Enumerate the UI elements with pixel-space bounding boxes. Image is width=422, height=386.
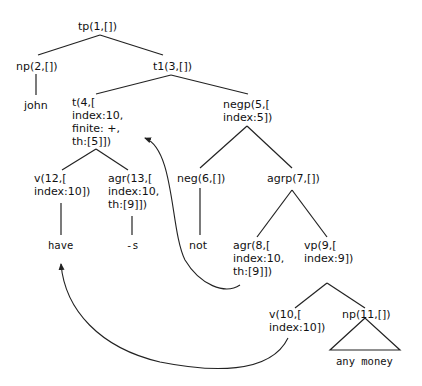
leaf-have: have bbox=[48, 239, 73, 252]
leaf-s: -s bbox=[126, 239, 139, 252]
leaf-not: not bbox=[189, 239, 207, 252]
node-negp5: negp(5,[ index:5]) bbox=[223, 98, 272, 124]
edge-t-agr13 bbox=[96, 149, 128, 170]
edge-negp-neg bbox=[200, 126, 247, 168]
node-agrp7: agrp(7,[]) bbox=[267, 172, 320, 185]
edge-vp-v10 bbox=[295, 283, 327, 308]
node-neg6: neg(6,[]) bbox=[177, 172, 225, 185]
node-np2: np(2,[]) bbox=[16, 60, 58, 73]
syntax-tree-diagram: tp(1,[]) np(2,[]) t1(3,[]) john t(4,[ in… bbox=[0, 0, 422, 386]
edge-agrp-agr8 bbox=[257, 190, 292, 237]
leaf-john: john bbox=[24, 99, 48, 112]
edge-t-v12 bbox=[62, 149, 96, 170]
node-agr8: agr(8,[ index:10, th:[9]]) bbox=[233, 239, 284, 278]
edge-tp-np bbox=[38, 35, 100, 55]
edge-agrp-vp9 bbox=[292, 190, 327, 237]
edge-vp-np11 bbox=[327, 283, 365, 308]
node-v12: v(12,[ index:10]) bbox=[34, 172, 90, 198]
movement-arrow-v10-to-have bbox=[61, 264, 288, 369]
node-np11: np(11,[]) bbox=[342, 308, 391, 321]
edge-negp-agrp bbox=[247, 126, 292, 168]
leaf-any-money: any money bbox=[336, 355, 393, 368]
node-vp9: vp(9,[ index:9]) bbox=[304, 239, 353, 265]
edge-tp-t1 bbox=[100, 35, 163, 55]
node-v10: v(10,[ index:10]) bbox=[269, 308, 325, 334]
node-t4: t(4,[ index:10, finite: +, th:[5]]) bbox=[72, 96, 123, 148]
movement-arrow-agr8-to-t4 bbox=[145, 138, 240, 289]
edge-t1-t bbox=[96, 75, 171, 94]
node-tp1: tp(1,[]) bbox=[78, 20, 117, 33]
edge-t1-negp bbox=[171, 75, 248, 94]
np11-triangle bbox=[330, 318, 400, 350]
node-t1-3: t1(3,[]) bbox=[153, 60, 192, 73]
node-agr13: agr(13,[ index:10, th:[9]]) bbox=[108, 172, 159, 211]
